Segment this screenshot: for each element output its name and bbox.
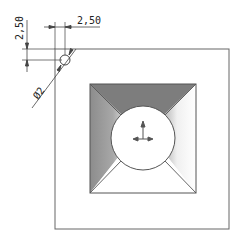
horizontal-dimension-label: 2,50 [77,15,101,26]
diameter-label: Ø2 [31,85,47,101]
extension-lines [22,22,65,60]
vertical-dimension-label: 2,50 [14,16,25,40]
vertical-dimension [26,20,29,72]
technical-drawing: 2,50 2,50 Ø2 [0,0,242,243]
